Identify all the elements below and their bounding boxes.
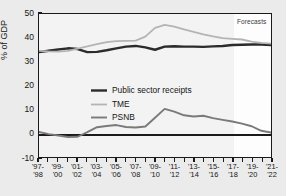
y-tick-label-5: 40 (0, 33, 34, 41)
y-tick-label-6: 50 (0, 9, 34, 17)
x-tick-mark-23 (262, 158, 263, 162)
x-tick-mark-19 (223, 158, 224, 162)
legend-swatch-receipts (91, 88, 107, 93)
x-tick-mark-13 (164, 158, 165, 162)
y-tick-label-3: 20 (0, 81, 34, 89)
x-tick-label-bottom: '22 (258, 171, 286, 179)
chart-figure: % of GDP -1001020304050 '97-'98'99-'00'0… (0, 0, 286, 196)
series-line-0 (39, 45, 271, 53)
legend-item-tme: TME (91, 100, 192, 109)
forecast-label: Forecasts (237, 18, 266, 25)
legend-swatch-psnb (91, 115, 107, 120)
legend-label-receipts: Public sector receipts (112, 86, 192, 95)
legend-label-tme: TME (112, 100, 130, 109)
x-tick-mark-5 (86, 158, 87, 162)
legend-item-receipts: Public sector receipts (91, 86, 192, 95)
legend-label-psnb: PSNB (112, 113, 135, 122)
x-tick-mark-7 (106, 158, 107, 162)
legend-swatch-tme (91, 102, 107, 107)
legend-item-psnb: PSNB (91, 113, 192, 122)
plot-area: Forecasts Public sector receipts TME PSN… (38, 13, 272, 158)
x-tick-mark-9 (125, 158, 126, 162)
x-tick-mark-15 (184, 158, 185, 162)
x-tick-mark-11 (145, 158, 146, 162)
y-tick-label-2: 10 (0, 105, 34, 113)
x-tick-mark-1 (47, 158, 48, 162)
y-tick-label-0: -10 (0, 154, 34, 162)
x-tick-mark-17 (203, 158, 204, 162)
chart-legend: Public sector receipts TME PSNB (91, 86, 192, 122)
x-tick-mark-21 (242, 158, 243, 162)
x-tick-mark-3 (67, 158, 68, 162)
x-tick-label-12: '21-'22 (258, 163, 286, 180)
y-tick-label-4: 30 (0, 57, 34, 65)
y-tick-label-1: 0 (0, 129, 34, 137)
